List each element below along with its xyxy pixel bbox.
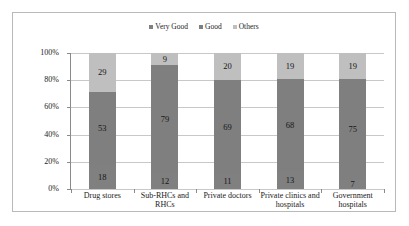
x-axis-category-label: Private doctors — [196, 191, 259, 209]
legend-label-very-good: Very Good — [155, 23, 188, 31]
y-axis-tick — [67, 162, 71, 163]
bar-segment[interactable]: 68 — [277, 79, 304, 171]
bar-segment[interactable]: 11 — [214, 174, 241, 189]
y-axis-tick-label: 40% — [44, 131, 59, 139]
y-axis-tick-label: 100% — [40, 49, 59, 57]
bar-segment[interactable]: 19 — [277, 53, 304, 79]
bar-series-group: 2953189791220691119681319757 — [71, 53, 384, 189]
bar-segment[interactable]: 19 — [339, 53, 366, 79]
legend-item-good[interactable]: Good — [199, 23, 222, 31]
y-axis-tick-label: 20% — [44, 158, 59, 166]
bar-segment[interactable]: 20 — [214, 53, 241, 80]
bar-segment[interactable]: 12 — [151, 173, 178, 189]
x-axis-category-label: Drug stores — [71, 191, 134, 209]
bar-segment[interactable]: 29 — [89, 53, 116, 92]
y-axis-tick-label: 60% — [44, 103, 59, 111]
legend-swatch-others — [233, 25, 237, 29]
chart-legend: Very Good Good Others — [13, 23, 395, 31]
y-axis-tick-label: 80% — [44, 76, 59, 84]
y-axis-tick — [67, 135, 71, 136]
bar-segment[interactable]: 53 — [89, 92, 116, 164]
bar-segment[interactable]: 18 — [89, 165, 116, 189]
legend-item-others[interactable]: Others — [233, 23, 259, 31]
legend-label-good: Good — [205, 23, 222, 31]
x-axis-tick — [384, 189, 385, 193]
bar-segment[interactable]: 79 — [151, 65, 178, 172]
plot-area: 2953189791220691119681319757 — [71, 53, 384, 189]
bar-column[interactable]: 97912 — [134, 53, 197, 189]
bar-segment[interactable]: 13 — [277, 171, 304, 189]
bar-stack: 196813 — [277, 53, 304, 189]
legend-swatch-good — [199, 25, 203, 29]
bar-segment[interactable]: 69 — [214, 80, 241, 174]
bar-stack: 295318 — [89, 53, 116, 189]
bar-stack: 206911 — [214, 53, 241, 189]
bar-column[interactable]: 295318 — [71, 53, 134, 189]
y-axis-tick-label: 0% — [48, 185, 59, 193]
gridline — [71, 189, 384, 190]
x-axis-category-labels: Drug storesSub-RHCs and RHCsPrivate doct… — [71, 191, 384, 209]
legend-label-others: Others — [239, 23, 259, 31]
bar-column[interactable]: 206911 — [196, 53, 259, 189]
chart-frame: Very Good Good Others 0%20%40%60%80%100%… — [12, 12, 396, 212]
x-axis-category-label: Government hospitals — [321, 191, 384, 209]
y-axis-tick-labels: 0%20%40%60%80%100% — [13, 53, 67, 189]
bar-segment[interactable]: 9 — [151, 53, 178, 65]
bar-segment[interactable]: 7 — [339, 180, 366, 189]
y-axis-tick — [67, 107, 71, 108]
bar-column[interactable]: 196813 — [259, 53, 322, 189]
y-axis-tick — [67, 80, 71, 81]
y-axis-tick — [67, 53, 71, 54]
legend-item-very-good[interactable]: Very Good — [149, 23, 188, 31]
bar-stack: 19757 — [339, 53, 366, 189]
legend-swatch-very-good — [149, 25, 153, 29]
bar-segment[interactable]: 75 — [339, 79, 366, 180]
bar-stack: 97912 — [151, 53, 178, 189]
x-axis-category-label: Sub-RHCs and RHCs — [134, 191, 197, 209]
x-axis-category-label: Private clinics and hospitals — [259, 191, 322, 209]
bar-column[interactable]: 19757 — [321, 53, 384, 189]
